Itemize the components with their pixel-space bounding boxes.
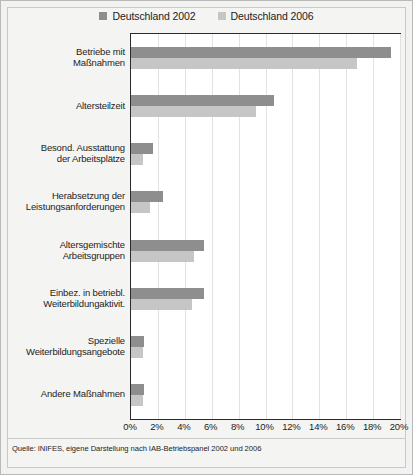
category-label-line: Spezielle bbox=[9, 335, 125, 346]
chart-legend: Deutschland 2002Deutschland 2006 bbox=[1, 10, 412, 22]
bar-2002 bbox=[131, 95, 274, 106]
bar-group bbox=[131, 227, 400, 275]
source-divider bbox=[8, 438, 405, 439]
bar-2006 bbox=[131, 299, 192, 310]
category-label: AltersgemischteArbeitsgruppen bbox=[9, 239, 125, 261]
category-label-line: Betriebe mit bbox=[9, 46, 125, 57]
bar-2006 bbox=[131, 154, 143, 165]
bar-2002 bbox=[131, 47, 391, 58]
bar-group bbox=[131, 371, 400, 419]
chart-figure: Deutschland 2002Deutschland 2006 Betrieb… bbox=[0, 0, 413, 475]
bar-2006 bbox=[131, 347, 143, 358]
category-label-line: Einbez. in betriebl. bbox=[9, 287, 125, 298]
category-label: Altersteilzeit bbox=[9, 100, 125, 111]
bar-group bbox=[131, 82, 400, 130]
legend-entry-1: Deutschland 2006 bbox=[218, 10, 314, 22]
category-label: Besond. Ausstattungder Arbeitsplätze bbox=[9, 142, 125, 164]
x-tick-label: 14% bbox=[309, 421, 327, 432]
bar-2002 bbox=[131, 336, 144, 347]
bar-2006 bbox=[131, 251, 194, 262]
legend-entry-0: Deutschland 2002 bbox=[99, 10, 195, 22]
category-label: Andere Maßnahmen bbox=[9, 388, 125, 399]
bars-layer bbox=[131, 34, 400, 419]
bar-2006 bbox=[131, 58, 357, 69]
category-axis-labels: Betriebe mitMaßnahmenAltersteilzeitBeson… bbox=[9, 33, 125, 418]
bar-2006 bbox=[131, 202, 150, 213]
gridline bbox=[400, 34, 401, 419]
category-label: Einbez. in betriebl.Weiterbildungaktivit… bbox=[9, 287, 125, 309]
legend-label: Deutschland 2006 bbox=[231, 10, 314, 22]
category-label-line: Weiterbildungsangebote bbox=[9, 346, 125, 357]
legend-swatch-2002 bbox=[99, 12, 107, 20]
bar-2006 bbox=[131, 395, 143, 406]
bar-group bbox=[131, 178, 400, 226]
x-axis-tick-labels: 0%2%4%6%8%10%12%14%16%18%20% bbox=[130, 421, 399, 435]
category-label: SpezielleWeiterbildungsangebote bbox=[9, 335, 125, 357]
x-tick-label: 2% bbox=[150, 421, 163, 432]
x-tick-label: 10% bbox=[255, 421, 273, 432]
bar-2002 bbox=[131, 288, 204, 299]
x-tick-label: 12% bbox=[282, 421, 300, 432]
category-label-line: Arbeitsgruppen bbox=[9, 250, 125, 261]
legend-swatch-2006 bbox=[218, 12, 226, 20]
bar-group bbox=[131, 34, 400, 82]
category-label-line: Leistungsanforderungen bbox=[9, 201, 125, 212]
plot-area bbox=[130, 33, 401, 420]
legend-label: Deutschland 2002 bbox=[112, 10, 195, 22]
category-label-line: Herabsetzung der bbox=[9, 190, 125, 201]
x-tick-label: 16% bbox=[336, 421, 354, 432]
bar-2002 bbox=[131, 240, 204, 251]
bar-group bbox=[131, 275, 400, 323]
bar-group bbox=[131, 323, 400, 371]
category-label-line: der Arbeitsplätze bbox=[9, 153, 125, 164]
category-label: Betriebe mitMaßnahmen bbox=[9, 46, 125, 68]
bar-group bbox=[131, 130, 400, 178]
category-label-line: Weiterbildungaktivit. bbox=[9, 298, 125, 309]
x-tick-label: 20% bbox=[390, 421, 408, 432]
x-tick-label: 0% bbox=[123, 421, 136, 432]
x-tick-label: 6% bbox=[204, 421, 217, 432]
x-tick-label: 4% bbox=[177, 421, 190, 432]
category-label-line: Altersgemischte bbox=[9, 239, 125, 250]
category-label-line: Andere Maßnahmen bbox=[9, 388, 125, 399]
category-label-line: Maßnahmen bbox=[9, 57, 125, 68]
bar-2002 bbox=[131, 384, 144, 395]
category-label: Herabsetzung derLeistungsanforderungen bbox=[9, 190, 125, 212]
category-label-line: Besond. Ausstattung bbox=[9, 142, 125, 153]
source-note: Quelle: INIFES, eigene Darstellung nach … bbox=[12, 444, 261, 453]
bar-2002 bbox=[131, 143, 153, 154]
bar-2002 bbox=[131, 191, 163, 202]
x-tick-label: 18% bbox=[363, 421, 381, 432]
x-tick-label: 8% bbox=[231, 421, 244, 432]
bar-2006 bbox=[131, 106, 256, 117]
category-label-line: Altersteilzeit bbox=[9, 100, 125, 111]
